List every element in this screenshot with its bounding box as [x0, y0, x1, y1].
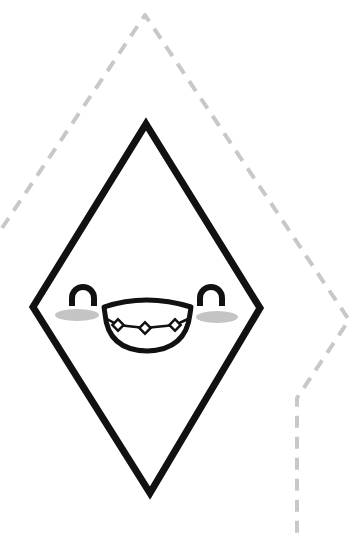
illustration-canvas — [0, 0, 354, 540]
diamond-character-illustration — [0, 0, 354, 540]
left-cheek — [55, 309, 99, 321]
right-cheek — [196, 311, 238, 323]
